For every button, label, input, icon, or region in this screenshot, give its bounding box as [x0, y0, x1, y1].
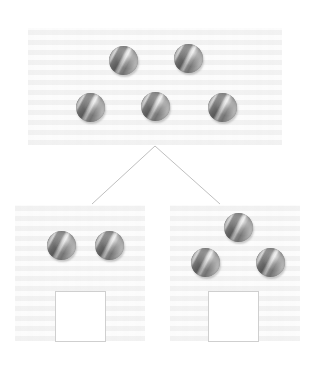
marble-rim	[174, 44, 203, 73]
marble-rim	[141, 92, 170, 121]
whole-marble-2	[174, 44, 203, 73]
part-right-marble-1	[224, 213, 253, 242]
part-left-marble-1	[47, 231, 76, 260]
branch-line-right	[155, 146, 220, 204]
marble-rim	[95, 231, 124, 260]
marble-rim	[208, 93, 237, 122]
whole-marble-3	[76, 93, 105, 122]
whole-group-panel	[28, 28, 282, 145]
whole-marble-1	[109, 46, 138, 75]
whole-marble-5	[208, 93, 237, 122]
part-left-answer-box[interactable]	[55, 291, 106, 342]
part-right-marble-3	[256, 248, 285, 277]
part-right-answer-box[interactable]	[208, 291, 259, 342]
whole-marble-4	[141, 92, 170, 121]
marble-rim	[47, 231, 76, 260]
branch-line-left	[92, 146, 155, 204]
marble-rim	[256, 248, 285, 277]
part-right-marble-2	[191, 248, 220, 277]
part-left-marble-2	[95, 231, 124, 260]
marble-rim	[109, 46, 138, 75]
marble-rim	[191, 248, 220, 277]
marble-rim	[76, 93, 105, 122]
marble-rim	[224, 213, 253, 242]
number-bond-diagram	[0, 0, 312, 369]
